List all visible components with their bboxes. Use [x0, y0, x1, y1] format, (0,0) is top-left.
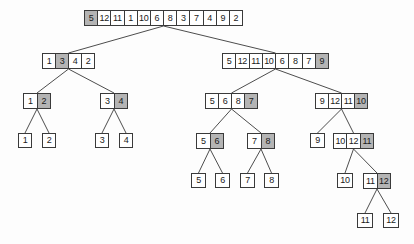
array-cell: 11	[110, 10, 124, 26]
array-cell: 9	[310, 133, 325, 148]
tree-edge	[37, 69, 69, 93]
array-cell: 11	[249, 53, 263, 69]
array-node-L: 1342	[42, 53, 95, 69]
tree-edge	[345, 149, 354, 173]
array-cell: 9	[315, 93, 329, 109]
array-cell: 8	[288, 53, 302, 69]
array-cell: 6	[215, 173, 230, 188]
array-cell: 1	[18, 133, 32, 148]
array-node-RL: 5687	[205, 93, 258, 109]
array-cell-highlighted: 5	[84, 10, 98, 26]
array-cell: 10	[137, 10, 151, 26]
array-node-R: 51211106879	[222, 53, 329, 69]
tree-edge	[276, 69, 342, 93]
array-cell: 5	[191, 173, 206, 188]
array-cell: 10	[337, 173, 353, 188]
array-cell: 7	[189, 10, 203, 26]
array-cell: 2	[229, 10, 243, 26]
array-cell-highlighted: 12	[377, 173, 392, 189]
array-cell-highlighted: 6	[210, 133, 225, 149]
array-cell: 12	[97, 10, 111, 26]
array-cell: 7	[247, 133, 262, 149]
tree-edge	[164, 26, 276, 53]
array-cell: 5	[205, 93, 219, 109]
array-cell-highlighted: 4	[114, 93, 129, 109]
tree-edge	[25, 109, 37, 133]
array-cell-highlighted: 7	[244, 93, 258, 109]
array-cell: 3	[100, 93, 115, 109]
array-node-root: 512111106837492	[84, 10, 243, 26]
array-node-RRRL: 10	[337, 173, 353, 188]
array-cell-highlighted: 10	[354, 93, 368, 109]
array-node-RLR: 78	[247, 133, 275, 149]
array-cell: 1	[42, 53, 56, 69]
array-node-RRR: 101211	[333, 133, 374, 149]
tree-edge	[210, 109, 232, 133]
tree-edge	[318, 109, 342, 133]
array-cell: 2	[42, 133, 56, 148]
array-node-LLR: 2	[42, 133, 56, 148]
array-cell: 12	[328, 93, 342, 109]
array-cell: 5	[196, 133, 211, 149]
array-cell: 7	[240, 173, 255, 188]
array-node-RRRRL: 11	[357, 213, 373, 228]
array-node-RRRRR: 12	[383, 213, 399, 228]
sort-recursion-tree-diagram: 5121111068374921342512111068791234568791…	[0, 0, 414, 244]
tree-edges	[0, 0, 414, 244]
array-cell: 6	[150, 10, 164, 26]
tree-edge	[365, 189, 377, 213]
array-node-RRL: 9	[310, 133, 325, 148]
array-node-RLRL: 7	[240, 173, 255, 188]
array-cell: 9	[216, 10, 230, 26]
tree-edge	[261, 149, 272, 173]
array-cell: 11	[341, 93, 355, 109]
tree-edge	[102, 109, 114, 133]
array-node-RR: 9121110	[315, 93, 368, 109]
tree-edge	[114, 109, 126, 133]
tree-edge	[69, 26, 164, 53]
array-cell: 4	[68, 53, 82, 69]
tree-edge	[210, 149, 223, 173]
array-cell: 5	[222, 53, 236, 69]
tree-edge	[199, 149, 211, 173]
array-node-RLL: 56	[196, 133, 224, 149]
array-node-LRR: 4	[119, 133, 133, 148]
tree-edge	[37, 109, 49, 133]
array-cell: 4	[203, 10, 217, 26]
tree-edge	[232, 69, 276, 93]
tree-edge	[248, 149, 262, 173]
array-cell: 12	[346, 133, 360, 149]
array-cell: 1	[124, 10, 138, 26]
array-cell-highlighted: 11	[360, 133, 374, 149]
array-cell: 6	[275, 53, 289, 69]
array-cell: 1	[23, 93, 38, 109]
tree-edge	[69, 69, 115, 93]
array-cell: 11	[357, 213, 373, 228]
array-cell-highlighted: 9	[315, 53, 329, 69]
tree-edge	[232, 109, 262, 133]
array-node-LR: 34	[100, 93, 128, 109]
array-cell: 12	[383, 213, 399, 228]
array-node-RRRR: 1112	[363, 173, 391, 189]
array-cell-highlighted: 3	[55, 53, 69, 69]
array-cell: 12	[235, 53, 249, 69]
array-node-LRL: 3	[95, 133, 109, 148]
array-cell: 2	[81, 53, 95, 69]
array-cell-highlighted: 2	[37, 93, 52, 109]
array-cell: 10	[262, 53, 276, 69]
array-cell: 8	[264, 173, 279, 188]
array-node-LL: 12	[23, 93, 51, 109]
array-cell: 3	[176, 10, 190, 26]
array-cell: 3	[95, 133, 109, 148]
array-cell: 8	[231, 93, 245, 109]
array-cell: 11	[363, 173, 378, 189]
array-cell: 10	[333, 133, 347, 149]
array-node-RLLR: 6	[215, 173, 230, 188]
tree-edge	[342, 109, 354, 133]
array-node-RLLL: 5	[191, 173, 206, 188]
array-node-LLL: 1	[18, 133, 32, 148]
array-cell: 4	[119, 133, 133, 148]
tree-edge	[354, 149, 378, 173]
array-node-RLRR: 8	[264, 173, 279, 188]
array-cell: 7	[302, 53, 316, 69]
